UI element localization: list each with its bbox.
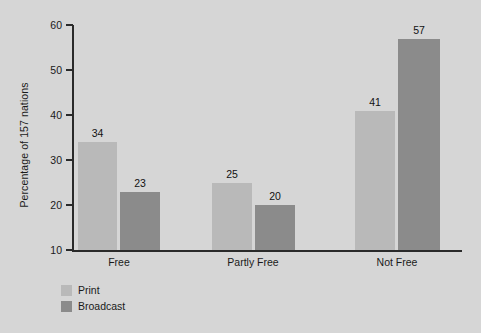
bar-value-label: 57 bbox=[413, 24, 425, 36]
legend-swatch-icon bbox=[61, 285, 72, 296]
bar-broadcast-bar bbox=[120, 192, 160, 251]
x-axis-category-label: Free bbox=[108, 256, 130, 268]
bar-broadcast-bar bbox=[398, 39, 440, 251]
bar-value-label: 34 bbox=[92, 127, 104, 139]
legend-item: Broadcast bbox=[61, 299, 125, 313]
bar-value-label: 20 bbox=[269, 190, 281, 202]
legend-swatch-icon bbox=[61, 301, 72, 312]
legend-label: Broadcast bbox=[78, 300, 125, 312]
bar-print-bar bbox=[212, 183, 252, 251]
x-axis-category-label: Not Free bbox=[377, 256, 418, 268]
bar-broadcast-bar bbox=[255, 205, 295, 250]
bar-chart-figure: Percentage of 157 nations 605040302010 3… bbox=[0, 0, 481, 333]
bar-value-label: 41 bbox=[369, 96, 381, 108]
chart-legend: PrintBroadcast bbox=[61, 283, 125, 315]
x-axis-category-label: Partly Free bbox=[227, 256, 278, 268]
legend-label: Print bbox=[78, 284, 100, 296]
bar-print-bar bbox=[355, 111, 395, 251]
legend-item: Print bbox=[61, 283, 125, 297]
bar-value-label: 23 bbox=[134, 177, 146, 189]
bar-print-bar bbox=[78, 142, 117, 250]
bar-value-label: 25 bbox=[226, 168, 238, 180]
